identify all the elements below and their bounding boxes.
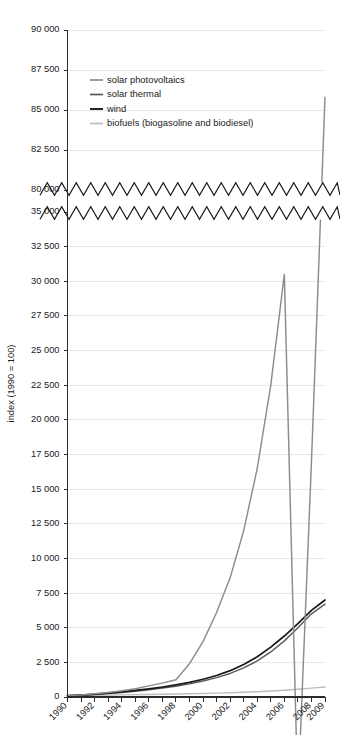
axes [64, 30, 326, 702]
x-tick-label: 1994 [101, 700, 123, 722]
series-line-wind [68, 600, 326, 696]
y-tick-label: 27 500 [31, 310, 59, 320]
x-tick-label: 1990 [47, 700, 69, 722]
axis-break-mask [40, 182, 340, 219]
legend-label: biofuels (biogasoline and biodiesel) [107, 117, 253, 128]
y-tick-label: 82 500 [31, 144, 59, 154]
y-tick-label: 22 500 [31, 380, 59, 390]
y-tick-label: 7 500 [36, 588, 59, 598]
series-line-solar [68, 604, 326, 695]
legend-label: solar thermal [107, 88, 161, 99]
x-tick-label: 1992 [74, 700, 96, 722]
x-tick-label: 2006 [264, 700, 286, 722]
x-tick-label: 1998 [156, 700, 178, 722]
y-axis-title-text: index (1990 = 100) [6, 345, 16, 423]
x-tick-label: 2004 [237, 700, 259, 722]
x-tick-label: 2002 [210, 700, 232, 722]
y-tick-label: 35 000 [31, 206, 59, 216]
x-axis-tick-labels: 1990199219941996199820002002200420062008… [47, 700, 326, 722]
y-tick-label: 25 000 [31, 345, 59, 355]
x-tick-label: 1996 [129, 700, 151, 722]
y-tick-label: 87 500 [31, 64, 59, 74]
y-tick-label: 10 000 [31, 553, 59, 563]
y-tick-label: 2 500 [36, 657, 59, 667]
y-tick-label: 90 000 [31, 24, 59, 34]
y-tick-label: 30 000 [31, 276, 59, 286]
line-chart: 02 5005 0007 50010 00012 50015 00017 500… [0, 0, 340, 735]
chart-legend: solar photovoltaicssolar thermalwindbiof… [90, 74, 253, 129]
y-tick-label: 15 000 [31, 484, 59, 494]
y-tick-label: 32 500 [31, 241, 59, 251]
y-tick-label: 17 500 [31, 449, 59, 459]
x-tick-label: 2000 [183, 700, 205, 722]
axis-break [40, 182, 340, 219]
chart-container: 02 5005 0007 50010 00012 50015 00017 500… [0, 0, 340, 735]
y-tick-label: 12 500 [31, 518, 59, 528]
y-tick-label: 20 000 [31, 414, 59, 424]
y-tick-label: 0 [54, 691, 59, 701]
y-axis-title: index (1990 = 100) [6, 345, 16, 423]
y-tick-label: 85 000 [31, 104, 59, 114]
legend-label: solar photovoltaics [107, 74, 185, 85]
legend-label: wind [106, 103, 126, 114]
y-tick-label: 5 000 [36, 622, 59, 632]
y-axis-tick-labels: 02 5005 0007 50010 00012 50015 00017 500… [31, 24, 59, 701]
y-tick-label: 80 000 [31, 184, 59, 194]
